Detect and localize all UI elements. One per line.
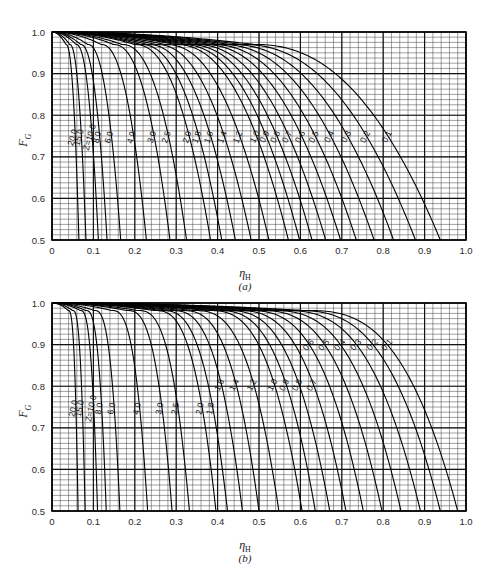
curve-label-1.4: 1.4: [227, 377, 242, 392]
x-tick-label: 0.6: [294, 245, 307, 256]
curve-label-2.5: 2.5: [159, 130, 173, 145]
curve-label-1.6: 1.6: [202, 130, 216, 145]
curve-label-8.0: 8.0: [93, 401, 105, 415]
plot-area-a: 20.015.0Z=10.08.06.04.03.02.52.01.81.61.…: [0, 14, 490, 264]
curve-label-4.0: 4.0: [125, 130, 138, 144]
x-tick-label: 0.1: [87, 245, 100, 256]
y-tick-label: 0.7: [32, 151, 45, 162]
x-tick-label: 1.0: [459, 245, 472, 256]
y-tick-label: 0.6: [32, 193, 45, 204]
y-tick-label: 0.8: [32, 110, 45, 121]
x-tick-label: 0.5: [252, 516, 265, 527]
curve-label-0.8: 0.8: [268, 129, 283, 144]
x-tick-label: 0: [49, 245, 54, 256]
x-tick-label: 0.3: [170, 245, 183, 256]
x-tick-label: 0.4: [211, 516, 224, 527]
x-tick-label: 0.6: [294, 516, 307, 527]
y-tick-label: 0.5: [32, 506, 45, 517]
chart-canvas-b: 20.015.0Z=10.08.06.04.03.02.52.01.81.61.…: [0, 285, 490, 535]
x-tick-label: 0.8: [377, 516, 390, 527]
x-tick-label: 0.8: [377, 245, 390, 256]
curve-label-1.2: 1.2: [244, 377, 259, 392]
y-tick-label: 1.0: [32, 27, 45, 38]
curve-label-0.2: 0.2: [365, 337, 381, 353]
curve-label-1.8: 1.8: [190, 130, 204, 145]
x-tick-label: 0.7: [335, 245, 348, 256]
x-tick-label: 0.5: [252, 245, 265, 256]
y-tick-label: 0.9: [32, 339, 45, 350]
curve-label-1.8: 1.8: [204, 401, 216, 415]
curve-label-4.0: 4.0: [131, 401, 143, 415]
curve-label-0.9: 0.9: [277, 377, 292, 392]
curve-label-6.0: 6.0: [102, 130, 115, 144]
x-tick-label: 0.9: [418, 516, 431, 527]
x-tick-label: 0: [49, 516, 54, 527]
curve-label-0.6: 0.6: [301, 337, 317, 353]
y-tick-label: 0.6: [32, 464, 45, 475]
x-tick-label: 0.1: [87, 516, 100, 527]
y-tick-label: 0.5: [32, 235, 45, 246]
y-axis-label-b: FG: [16, 405, 32, 418]
curve-label-2.5: 2.5: [169, 401, 181, 415]
y-tick-label: 1.0: [32, 298, 45, 309]
curve-label-6.0: 6.0: [105, 401, 117, 415]
plot-area-b: 20.015.0Z=10.08.06.04.03.02.52.01.81.61.…: [0, 285, 490, 535]
figure-panel-a: 20.015.0Z=10.08.06.04.03.02.52.01.81.61.…: [0, 14, 490, 290]
x-tick-label: 0.9: [418, 245, 431, 256]
curve-label-0.5: 0.5: [316, 337, 332, 353]
curve-label-1.6: 1.6: [212, 377, 227, 392]
x-tick-label: 0.4: [211, 245, 224, 256]
x-tick-label: 0.2: [128, 516, 141, 527]
y-axis-label-a: FG: [16, 134, 32, 147]
x-tick-label: 0.7: [335, 516, 348, 527]
curve-label-0.4: 0.4: [332, 337, 348, 353]
curve-label-0.3: 0.3: [348, 337, 364, 353]
x-tick-label: 1.0: [459, 516, 472, 527]
curve-label-0.6: 0.6: [293, 129, 308, 144]
chart-canvas-a: 20.015.0Z=10.08.06.04.03.02.52.01.81.61.…: [0, 14, 490, 264]
curve-labels-a: 20.015.0Z=10.08.06.04.03.02.52.01.81.61.…: [65, 123, 394, 152]
panel-caption-b: (b): [0, 552, 490, 564]
curve-label-0.7: 0.7: [304, 377, 319, 392]
x-tick-label: 0.3: [170, 516, 183, 527]
curve-label-3.0: 3.0: [153, 401, 165, 415]
y-tick-label: 0.8: [32, 381, 45, 392]
y-tick-label: 0.7: [32, 422, 45, 433]
curve-label-3.0: 3.0: [145, 130, 159, 145]
x-tick-label: 0.2: [128, 245, 141, 256]
y-tick-label: 0.9: [32, 68, 45, 79]
figure-panel-b: 20.015.0Z=10.08.06.04.03.02.52.01.81.61.…: [0, 285, 490, 566]
